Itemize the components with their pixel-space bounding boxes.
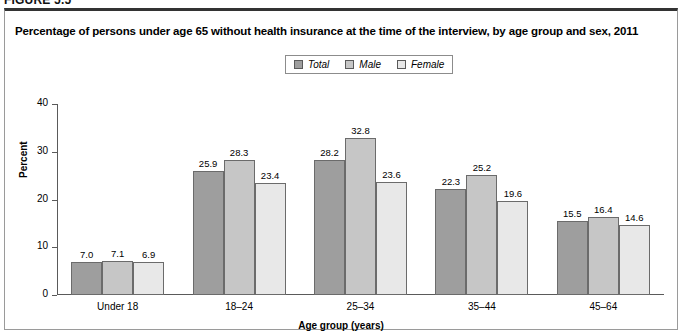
bar-group-bars: 15.516.414.6	[547, 104, 659, 295]
bar-total[interactable]	[435, 189, 466, 295]
y-tick-label: 40	[37, 97, 48, 108]
y-axis-title: Percent	[18, 141, 29, 178]
figure-title: Percentage of persons under age 65 witho…	[15, 24, 665, 38]
bar-female[interactable]	[133, 262, 164, 295]
y-tick-mark	[52, 247, 57, 248]
bar-column-total[interactable]: 22.3	[435, 104, 466, 295]
bar-group-bars: 25.928.323.4	[183, 104, 295, 295]
legend-swatch-icon	[345, 60, 354, 69]
bar-column-female[interactable]: 19.6	[497, 104, 528, 295]
bar-column-total[interactable]: 15.5	[557, 104, 588, 295]
legend-label: Female	[411, 59, 444, 70]
bar-group: 28.232.823.625–34	[305, 104, 417, 295]
y-tick-mark	[52, 104, 57, 105]
y-axis-line	[57, 104, 58, 295]
plot-area: 0102030407.07.16.9Under 1825.928.323.418…	[57, 104, 664, 295]
bar-column-female[interactable]: 6.9	[133, 104, 164, 295]
legend-swatch-icon	[294, 60, 303, 69]
bar-value-label: 6.9	[142, 249, 155, 260]
bar-male[interactable]	[345, 138, 376, 295]
bar-group-bars: 7.07.16.9	[62, 104, 174, 295]
y-tick-mark	[52, 295, 57, 296]
bar-value-label: 28.3	[230, 147, 249, 158]
figure-root: FIGURE 5.5 Percentage of persons under a…	[0, 0, 682, 334]
bar-column-male[interactable]: 32.8	[345, 104, 376, 295]
bar-column-total[interactable]: 25.9	[193, 104, 224, 295]
bar-value-label: 28.2	[320, 147, 339, 158]
bar-group: 15.516.414.645–64	[547, 104, 659, 295]
bar-male[interactable]	[224, 160, 255, 295]
bar-value-label: 15.5	[563, 208, 582, 219]
bar-value-label: 19.6	[504, 188, 523, 199]
bar-group-bars: 22.325.219.6	[426, 104, 538, 295]
x-axis-title: Age group (years)	[0, 320, 682, 331]
bar-value-label: 7.0	[80, 249, 93, 260]
bar-total[interactable]	[71, 262, 102, 295]
bar-column-male[interactable]: 28.3	[224, 104, 255, 295]
bar-total[interactable]	[314, 160, 345, 295]
x-category-label: 45–64	[547, 301, 659, 312]
bar-group: 7.07.16.9Under 18	[62, 104, 174, 295]
legend-item-female[interactable]: Female	[397, 59, 444, 70]
legend-swatch-icon	[397, 60, 406, 69]
bar-group-bars: 28.232.823.6	[305, 104, 417, 295]
bar-value-label: 14.6	[625, 212, 644, 223]
bar-value-label: 25.2	[473, 162, 492, 173]
bar-column-total[interactable]: 28.2	[314, 104, 345, 295]
y-tick-label: 20	[37, 193, 48, 204]
legend-item-total[interactable]: Total	[294, 59, 329, 70]
chart-legend: TotalMaleFemale	[285, 55, 453, 74]
bar-value-label: 16.4	[594, 204, 613, 215]
bar-group: 25.928.323.418–24	[183, 104, 295, 295]
legend-item-male[interactable]: Male	[345, 59, 381, 70]
bar-female[interactable]	[376, 182, 407, 295]
bar-value-label: 22.3	[442, 176, 461, 187]
bar-male[interactable]	[102, 261, 133, 295]
y-tick-label: 10	[37, 240, 48, 251]
bar-value-label: 23.4	[261, 170, 280, 181]
bar-male[interactable]	[466, 175, 497, 295]
x-category-label: Under 18	[62, 301, 174, 312]
bar-female[interactable]	[619, 225, 650, 295]
bar-column-male[interactable]: 16.4	[588, 104, 619, 295]
bar-group: 22.325.219.635–44	[426, 104, 538, 295]
y-tick-mark	[52, 200, 57, 201]
figure-number-label: FIGURE 5.5	[4, 0, 71, 7]
legend-label: Total	[308, 59, 329, 70]
bar-value-label: 25.9	[199, 158, 218, 169]
bar-total[interactable]	[193, 171, 224, 295]
bar-column-female[interactable]: 14.6	[619, 104, 650, 295]
bar-column-male[interactable]: 7.1	[102, 104, 133, 295]
legend-label: Male	[359, 59, 381, 70]
x-category-label: 25–34	[305, 301, 417, 312]
bar-column-total[interactable]: 7.0	[71, 104, 102, 295]
y-tick-label: 30	[37, 145, 48, 156]
bar-female[interactable]	[255, 183, 286, 295]
bar-total[interactable]	[557, 221, 588, 295]
bar-column-male[interactable]: 25.2	[466, 104, 497, 295]
bar-value-label: 7.1	[111, 248, 124, 259]
x-category-label: 35–44	[426, 301, 538, 312]
bar-column-female[interactable]: 23.4	[255, 104, 286, 295]
bar-value-label: 32.8	[351, 125, 370, 136]
x-category-label: 18–24	[183, 301, 295, 312]
bar-value-label: 23.6	[382, 169, 401, 180]
bar-female[interactable]	[497, 201, 528, 295]
bar-male[interactable]	[588, 217, 619, 295]
y-tick-mark	[52, 152, 57, 153]
y-tick-label: 0	[42, 288, 48, 299]
bar-column-female[interactable]: 23.6	[376, 104, 407, 295]
